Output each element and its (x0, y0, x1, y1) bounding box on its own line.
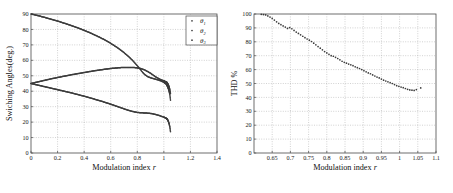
y-tick-label: 60 (22, 56, 28, 63)
x-tick-label: 0.8 (133, 154, 141, 161)
x-tick-label: 0 (29, 154, 32, 161)
x-tick-label: 0.65 (267, 154, 278, 161)
x-tick-label: 1.1 (432, 154, 440, 161)
y-tick-label: 0 (249, 149, 252, 156)
x-tick-label: 0.9 (359, 154, 367, 161)
y-tick-label: 80 (22, 26, 28, 33)
x-tick-label: 0.8 (323, 154, 331, 161)
y-tick-label: 10 (245, 135, 251, 142)
chart-panel-thd: 0.650.70.750.80.850.90.9511.051.10102030… (227, 0, 453, 193)
thd-plot: 0.650.70.750.80.850.90.9511.051.10102030… (227, 0, 453, 193)
legend: θ1θ2θ3 (186, 16, 217, 45)
x-tick-label: 1.4 (213, 154, 221, 161)
x-tick-label: 0.7 (287, 154, 295, 161)
x-tick-label: 1.2 (187, 154, 195, 161)
y-tick-label: 80 (245, 38, 251, 45)
y-tick-label: 90 (245, 24, 251, 31)
y-tick-label: 20 (245, 121, 251, 128)
y-tick-label: 90 (22, 10, 28, 17)
y-tick-label: 70 (22, 41, 28, 48)
y-tick-label: 60 (245, 66, 251, 73)
y-tick-label: 50 (22, 72, 28, 79)
x-tick-label: 0.6 (107, 154, 115, 161)
y-tick-label: 70 (245, 52, 251, 59)
chart-panel-switching-angles: 00.20.40.60.811.21.40102030405060708090M… (0, 0, 227, 193)
x-tick-label: 0.4 (80, 154, 88, 161)
y-axis-title: THD % (230, 70, 239, 96)
x-tick-label: 0.95 (376, 154, 387, 161)
y-tick-label: 100 (242, 10, 251, 17)
y-axis-title: Swiching Angles(deg.) (5, 46, 14, 121)
y-tick-label: 30 (22, 103, 28, 110)
x-axis-title: Modulation index r (313, 163, 378, 172)
x-axis-title: Modulation index r (92, 163, 157, 172)
y-tick-label: 40 (245, 94, 251, 101)
x-tick-label: 0.75 (303, 154, 314, 161)
y-tick-label: 40 (22, 87, 28, 94)
x-tick-label: 0.85 (340, 154, 351, 161)
switching-angles-plot: 00.20.40.60.811.21.40102030405060708090M… (0, 0, 227, 193)
x-tick-label: 1.05 (412, 154, 423, 161)
y-tick-label: 20 (22, 118, 28, 125)
x-tick-label: 1 (398, 154, 401, 161)
y-tick-label: 50 (245, 80, 251, 87)
y-tick-label: 10 (22, 134, 28, 141)
y-tick-label: 0 (26, 149, 29, 156)
x-tick-label: 1 (162, 154, 165, 161)
x-tick-label: 0.2 (54, 154, 62, 161)
figure-container: 00.20.40.60.811.21.40102030405060708090M… (0, 0, 453, 193)
y-tick-label: 30 (245, 107, 251, 114)
